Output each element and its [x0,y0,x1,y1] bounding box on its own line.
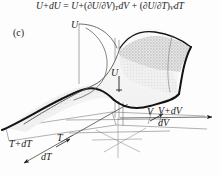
panel-label-c: (c) [13,28,24,38]
eqn-equals: = [60,0,71,11]
v-axis-label: V [147,107,153,117]
origin-guide-lines [92,118,146,158]
dv-label: dV [158,118,169,128]
v-plus-dv-label: V+dV [158,106,182,116]
eqn-lhs-u: U [36,0,43,11]
eqn-term1-denominator: ∂V [101,0,111,11]
t-plus-dt-label: T+dT [9,139,32,149]
u-axis-label-lower: U [111,68,118,78]
eqn-rhs-u: U [71,0,78,11]
dt-label: dT [41,152,52,162]
u-axis-label-upper: U [71,20,78,30]
eqn-term2-differential: dT [174,0,184,11]
total-differential-equation: U+dU = U+(∂U/∂V)TdV + (∂U/∂T)VdT [36,1,184,12]
eqn-term1-differential: dV [118,0,128,11]
t-axis-label: T [57,133,63,143]
eqn-term2-numerator: ∂U [143,0,154,11]
eqn-rhs-plus-2: + [129,0,140,11]
eqn-lhs-du: dU [49,0,61,11]
eqn-term2-denominator: ∂T [157,0,167,11]
thermodynamics-figure-panel-c: U+dU = U+(∂U/∂V)TdV + (∂U/∂T)VdT (c) U U… [0,0,220,176]
three-d-surface-diagram [0,0,220,176]
eqn-term1-numerator: ∂U [87,0,98,11]
